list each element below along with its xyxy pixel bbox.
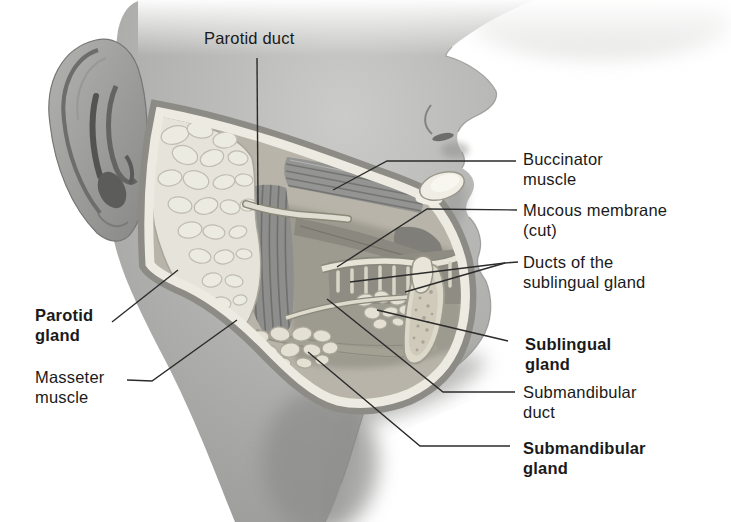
label-submandibular-duct: Submandibular duct <box>523 382 653 422</box>
label-masseter-muscle: Masseter muscle <box>35 367 127 407</box>
label-parotid-duct: Parotid duct <box>204 28 294 48</box>
ear <box>49 39 148 241</box>
figure-canvas: Parotid duct Buccinator muscle Mucous me… <box>0 0 731 522</box>
label-buccinator-muscle: Buccinator muscle <box>523 149 618 189</box>
label-ducts-of-sublingual-gland: Ducts of the sublingual gland <box>523 252 659 292</box>
label-submandibular-gland: Submandibular gland <box>523 438 675 478</box>
label-sublingual-gland: Sublingual gland <box>525 334 627 374</box>
leader-parotid-duct <box>257 58 258 205</box>
label-mucous-membrane-cut: Mucous membrane (cut) <box>523 200 685 240</box>
label-parotid-gland: Parotid gland <box>35 305 113 345</box>
